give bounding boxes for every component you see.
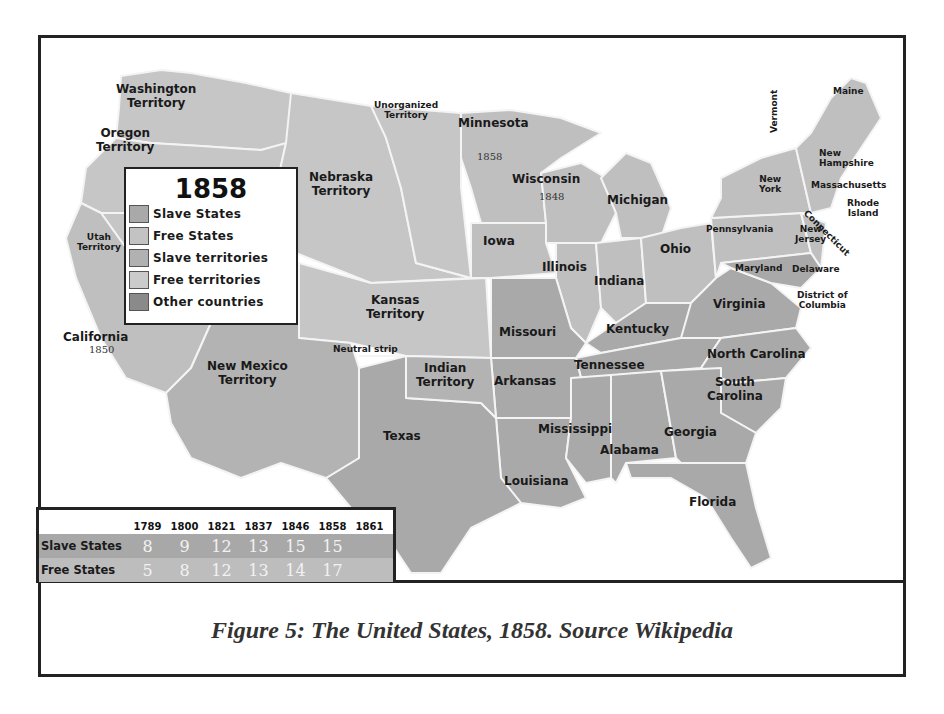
label-iowa: Iowa <box>483 234 515 248</box>
label-washington-territory: WashingtonTerritory <box>116 82 196 110</box>
label-maryland: Maryland <box>735 263 782 273</box>
label-delaware: Delaware <box>792 264 840 274</box>
swatch-free-territories <box>129 271 149 289</box>
label-new-york: NewYork <box>759 174 781 194</box>
label-utah-territory: UtahTerritory <box>77 232 121 252</box>
year-header: 1837 <box>240 521 277 532</box>
swatch-slave-territories <box>129 249 149 267</box>
label-unorganized-territory: UnorganizedTerritory <box>374 100 438 120</box>
legend-item-other-countries: Other countries <box>126 291 296 313</box>
legend-item-slave-territories: Slave territories <box>126 247 296 269</box>
label-tennessee: Tennessee <box>574 358 645 372</box>
label-indian-territory: IndianTerritory <box>416 361 474 389</box>
label-california-year: 1850 <box>89 344 114 355</box>
label-maine: Maine <box>833 86 864 96</box>
legend-item-free-territories: Free territories <box>126 269 296 291</box>
legend-item-free-states: Free States <box>126 225 296 247</box>
label-california: California <box>63 330 128 344</box>
label-south-carolina: SouthCarolina <box>707 375 763 403</box>
label-georgia: Georgia <box>664 425 717 439</box>
label-arkansas: Arkansas <box>494 374 556 388</box>
label-district-of-columbia: District ofColumbia <box>797 290 848 310</box>
label-indiana: Indiana <box>594 274 644 288</box>
label-virginia: Virginia <box>713 297 766 311</box>
label-minnesota-year: 1858 <box>477 151 502 162</box>
label-new-mexico-territory: New MexicoTerritory <box>207 359 288 387</box>
label-alabama: Alabama <box>600 443 659 457</box>
label-mississippi: Mississippi <box>538 422 612 436</box>
year-header: 1861 <box>351 521 388 532</box>
figure-caption: Figure 5: The United States, 1858. Sourc… <box>41 583 903 677</box>
label-illinois: Illinois <box>542 260 587 274</box>
label-missouri: Missouri <box>499 325 556 339</box>
year-header: 1846 <box>277 521 314 532</box>
label-wisconsin: Wisconsin <box>512 172 580 186</box>
swatch-other-countries <box>129 293 149 311</box>
table-header-row: 1789 1800 1821 1837 1846 1858 1861 <box>39 510 393 534</box>
label-new-hampshire: NewHampshire <box>819 148 874 168</box>
label-massachusetts: Massachusetts <box>811 180 886 190</box>
label-rhode-island: RhodeIsland <box>847 198 879 218</box>
label-ohio: Ohio <box>660 242 691 256</box>
state-count-table: 1789 1800 1821 1837 1846 1858 1861 Slave… <box>36 507 396 583</box>
region-arkansas <box>491 358 581 418</box>
label-texas: Texas <box>383 429 421 443</box>
label-michigan: Michigan <box>607 193 668 207</box>
year-header: 1800 <box>166 521 203 532</box>
legend-title: 1858 <box>126 175 296 203</box>
label-wisconsin-year: 1848 <box>539 191 564 202</box>
label-neutral-strip: Neutral strip <box>333 344 398 354</box>
label-oregon-territory: OregonTerritory <box>96 126 154 154</box>
label-louisiana: Louisiana <box>504 474 569 488</box>
label-florida: Florida <box>689 495 736 509</box>
table-row-slave-states: Slave States 8 9 12 13 15 15 <box>39 534 393 558</box>
table-row-free-states: Free States 5 8 12 13 14 17 <box>39 558 393 582</box>
label-nebraska-territory: NebraskaTerritory <box>309 170 373 198</box>
year-header: 1858 <box>314 521 351 532</box>
figure-caption-text: Figure 5: The United States, 1858. Sourc… <box>211 617 733 644</box>
region-florida <box>626 463 771 568</box>
year-header: 1821 <box>203 521 240 532</box>
region-new-england <box>796 78 881 213</box>
label-minnesota: Minnesota <box>458 116 529 130</box>
swatch-slave-states <box>129 205 149 223</box>
label-north-carolina: North Carolina <box>707 347 806 361</box>
legend-item-slave-states: Slave States <box>126 203 296 225</box>
map-legend: 1858 Slave States Free States Slave terr… <box>124 167 298 325</box>
label-kansas-territory: KansasTerritory <box>366 293 424 321</box>
label-pennsylvania: Pennsylvania <box>706 224 773 234</box>
label-vermont: Vermont <box>769 90 779 133</box>
swatch-free-states <box>129 227 149 245</box>
label-kentucky: Kentucky <box>606 322 669 336</box>
year-header: 1789 <box>129 521 166 532</box>
